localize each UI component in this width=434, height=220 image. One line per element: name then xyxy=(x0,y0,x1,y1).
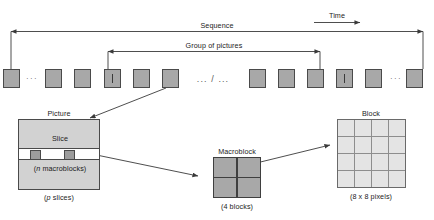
macroblock-title: Macroblock xyxy=(218,148,256,155)
macroblock-block-4[interactable] xyxy=(238,178,260,197)
pixel-cell xyxy=(363,137,371,145)
pixel-cell xyxy=(397,154,405,162)
frame-5[interactable] xyxy=(133,69,150,88)
frame-6[interactable] xyxy=(162,69,179,88)
slices-note: (p slices) xyxy=(44,194,74,201)
pixel-cell xyxy=(389,171,397,179)
frame-9[interactable] xyxy=(307,69,324,88)
frame-12[interactable] xyxy=(406,69,423,88)
pixel-cell xyxy=(338,128,346,136)
frame-7[interactable] xyxy=(249,69,266,88)
pixel-cell xyxy=(380,137,388,145)
pixel-cell xyxy=(389,145,397,153)
pixel-cell xyxy=(355,145,363,153)
pixel-cell xyxy=(355,171,363,179)
block-title: Block xyxy=(362,110,380,117)
frame-3[interactable] xyxy=(74,69,91,88)
pixel-cell xyxy=(380,120,388,128)
pixel-cell xyxy=(363,171,371,179)
gop-label: Group of pictures xyxy=(186,42,243,49)
pixel-cell xyxy=(355,179,363,187)
pixel-cell xyxy=(338,137,346,145)
pixel-cell xyxy=(346,128,354,136)
slice-macroblock-last[interactable] xyxy=(64,150,75,160)
macroblocks-note: (n macroblocks) xyxy=(34,165,87,172)
macroblock-block-1[interactable] xyxy=(214,158,236,177)
pixel-cell xyxy=(338,145,346,153)
pixel-cell xyxy=(363,145,371,153)
pixel-cell xyxy=(389,162,397,170)
picture-box[interactable]: Slice (n macroblocks) xyxy=(18,119,100,190)
macroblock-grid[interactable] xyxy=(213,157,261,198)
pixel-cell xyxy=(363,128,371,136)
pixel-cell xyxy=(372,154,380,162)
pixel-cell xyxy=(363,162,371,170)
frame-1[interactable] xyxy=(3,69,20,88)
pixel-cell xyxy=(380,179,388,187)
slices-note-rest: slices) xyxy=(51,193,74,202)
slice-band[interactable] xyxy=(19,148,99,160)
pixel-cell xyxy=(338,179,346,187)
pixel-cell xyxy=(363,120,371,128)
intra-frame-marker-icon xyxy=(112,74,113,83)
pixel-cell xyxy=(380,162,388,170)
pixel-cell xyxy=(363,154,371,162)
macroblocks-note-rest: macroblocks) xyxy=(40,164,86,173)
sequence-bracket xyxy=(11,32,423,70)
frame-2[interactable] xyxy=(45,69,62,88)
block-note: (8 x 8 pixels) xyxy=(350,193,392,200)
pixel-cell xyxy=(338,120,346,128)
pixel-cell xyxy=(397,137,405,145)
pixel-cell xyxy=(355,137,363,145)
pixel-cell xyxy=(363,179,371,187)
pixel-cell xyxy=(355,128,363,136)
pixel-cell xyxy=(346,137,354,145)
pixel-cell xyxy=(389,154,397,162)
pixel-cell xyxy=(346,162,354,170)
pixel-cell xyxy=(338,162,346,170)
pixel-cell xyxy=(380,128,388,136)
gop-bracket xyxy=(108,52,320,70)
pixel-cell xyxy=(346,145,354,153)
slice-label: Slice xyxy=(52,135,68,142)
pixel-cell xyxy=(346,179,354,187)
diagram-canvas: Time Sequence Group of pictures ··· ... … xyxy=(0,0,434,220)
slice-macroblock-first[interactable] xyxy=(30,150,41,160)
pixel-cell xyxy=(346,154,354,162)
pixel-cell xyxy=(355,162,363,170)
frame-run-separator: ... / ... xyxy=(197,75,229,84)
pixel-cell xyxy=(346,171,354,179)
pixel-cell xyxy=(338,154,346,162)
pixel-cell xyxy=(372,128,380,136)
block-pixel-grid[interactable] xyxy=(337,119,406,188)
pixel-cell xyxy=(372,179,380,187)
macroblock-block-2[interactable] xyxy=(238,158,260,177)
time-label: Time xyxy=(329,12,345,19)
frame-ellipsis-left: ··· xyxy=(26,75,38,83)
pixel-cell xyxy=(397,162,405,170)
intra-frame-marker-icon xyxy=(344,74,345,83)
macroblock-note: (4 blocks) xyxy=(221,203,253,210)
picture-title: Picture xyxy=(47,110,70,117)
pixel-cell xyxy=(380,154,388,162)
frame-4-intra[interactable] xyxy=(104,69,121,88)
pixel-cell xyxy=(355,154,363,162)
pixel-cell xyxy=(397,179,405,187)
pixel-cell xyxy=(389,128,397,136)
pixel-cell xyxy=(372,120,380,128)
pixel-cell xyxy=(372,137,380,145)
pixel-cell xyxy=(397,171,405,179)
pixel-cell xyxy=(389,120,397,128)
sequence-label: Sequence xyxy=(200,22,233,29)
frame-11[interactable] xyxy=(365,69,382,88)
pixel-cell xyxy=(372,162,380,170)
pixel-cell xyxy=(389,137,397,145)
pixel-cell xyxy=(380,171,388,179)
pixel-cell xyxy=(372,145,380,153)
frame-ellipsis-right: ··· xyxy=(390,75,402,83)
frame-10-intra[interactable] xyxy=(336,69,353,88)
frame-8[interactable] xyxy=(278,69,295,88)
pixel-cell xyxy=(346,120,354,128)
macroblock-block-3[interactable] xyxy=(214,178,236,197)
pixel-cell xyxy=(397,128,405,136)
